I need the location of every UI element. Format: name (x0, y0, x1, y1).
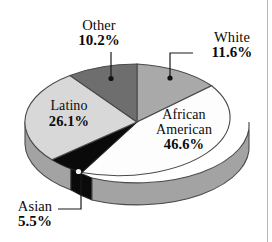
slice-label-white-percent: 11.6% (196, 45, 268, 61)
slice-label-african-american-percent: 46.6% (142, 137, 226, 152)
slice-label-other-name: Other (56, 18, 142, 33)
slice-label-latino-percent: 26.1% (29, 114, 109, 129)
slice-label-asian-percent: 5.5% (2, 214, 68, 230)
pie-chart-figure: Other 10.2% White 11.6% Latino 26.1% Afr… (0, 0, 272, 242)
slice-label-asian-name: Asian (2, 199, 68, 214)
slice-label-white-name: White (196, 30, 268, 45)
slice-label-asian: Asian 5.5% (2, 199, 68, 230)
slice-label-other: Other 10.2% (56, 18, 142, 49)
slice-label-african-american: African American 46.6% (142, 108, 226, 152)
slice-label-other-percent: 10.2% (56, 33, 142, 49)
page-edge-rule (267, 0, 268, 242)
slice-label-latino: Latino 26.1% (29, 99, 109, 129)
slice-label-white: White 11.6% (196, 30, 268, 61)
slice-label-latino-name: Latino (29, 99, 109, 114)
slice-label-african-american-name-line2: American (142, 123, 226, 138)
slice-label-african-american-name-line1: African (142, 108, 226, 123)
